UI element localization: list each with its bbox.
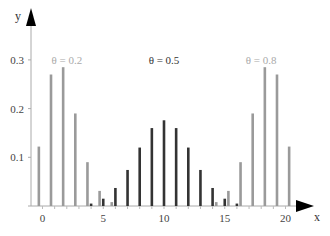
- bar: [276, 75, 279, 206]
- x-tick-label: 20: [280, 212, 292, 224]
- y-axis-label: y: [15, 9, 21, 23]
- chart-canvas: yx0.10.20.305101520 θ = 0.2θ = 0.5θ = 0.…: [0, 0, 330, 236]
- bars: [38, 67, 291, 206]
- bar: [251, 113, 254, 206]
- bar: [74, 113, 77, 206]
- bar: [288, 147, 291, 206]
- y-tick-label: 0.1: [10, 151, 24, 163]
- bar: [110, 202, 113, 206]
- bar: [211, 188, 214, 206]
- bar: [163, 120, 166, 206]
- x-tick-label: 5: [101, 212, 107, 224]
- bar: [102, 199, 105, 206]
- bar: [223, 199, 226, 206]
- x-tick-label: 0: [40, 212, 46, 224]
- bar: [90, 204, 93, 206]
- bar: [62, 67, 65, 206]
- x-tick-label: 15: [219, 212, 231, 224]
- bar: [175, 128, 178, 206]
- series-label: θ = 0.2: [51, 54, 82, 66]
- x-axis-arrow-icon: [296, 200, 314, 212]
- bar: [50, 75, 53, 206]
- bar: [86, 162, 89, 206]
- bar: [126, 170, 129, 206]
- bar: [114, 188, 117, 206]
- bar: [187, 148, 190, 206]
- x-tick-label: 10: [159, 212, 171, 224]
- series-label: θ = 0.5: [149, 54, 180, 66]
- bar: [199, 170, 202, 206]
- bar: [38, 147, 41, 206]
- bar: [151, 128, 154, 206]
- binomial-distribution-chart: yx0.10.20.305101520 θ = 0.2θ = 0.5θ = 0.…: [0, 0, 330, 236]
- bar: [138, 148, 141, 206]
- y-tick-label: 0.2: [10, 103, 24, 115]
- bar: [215, 202, 218, 206]
- y-axis-arrow-icon: [26, 8, 36, 26]
- bar: [98, 191, 101, 206]
- x-axis-label: x: [314, 210, 320, 224]
- bar: [227, 191, 230, 206]
- series-labels: θ = 0.2θ = 0.5θ = 0.8: [51, 54, 277, 66]
- y-tick-label: 0.3: [10, 54, 24, 66]
- bar: [236, 204, 239, 206]
- series-label: θ = 0.8: [246, 54, 277, 66]
- bar: [264, 67, 267, 206]
- bar: [239, 162, 242, 206]
